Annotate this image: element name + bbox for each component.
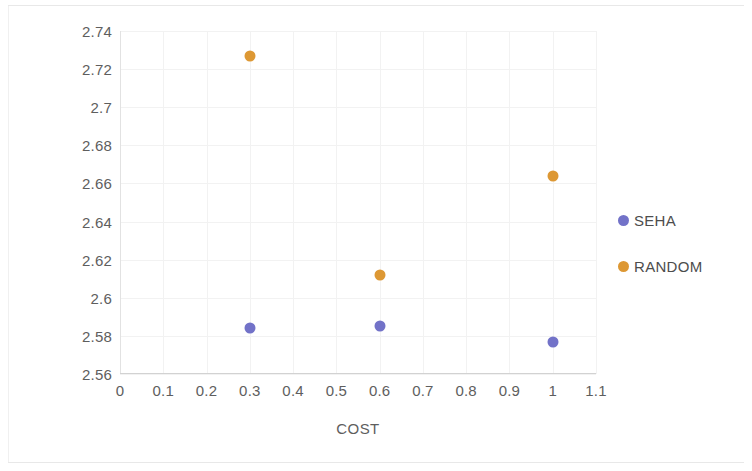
data-point-seha — [374, 321, 385, 332]
gridline-horizontal — [120, 183, 596, 184]
legend-marker-icon — [618, 261, 629, 272]
y-axis-tick-label: 2.7 — [56, 99, 112, 116]
gridline-vertical — [207, 31, 208, 374]
y-axis-tick-label: 2.62 — [56, 251, 112, 268]
x-axis-tick-label: 0.4 — [282, 382, 303, 399]
y-axis-tick-label: 2.74 — [56, 23, 112, 40]
x-axis-tick-label: 0.9 — [499, 382, 520, 399]
x-axis-tick-label: 0.8 — [455, 382, 476, 399]
y-axis-tick-label: 2.66 — [56, 175, 112, 192]
gridline-horizontal — [120, 374, 596, 375]
y-axis-tick-labels: 2.742.722.72.682.662.642.622.62.582.56 — [50, 31, 112, 374]
x-axis-tick-label: 0.6 — [369, 382, 390, 399]
x-axis-tick-label: 0.3 — [239, 382, 260, 399]
gridline-vertical — [596, 31, 597, 374]
x-axis-tick-label: 0.5 — [326, 382, 347, 399]
y-axis-tick-label: 2.72 — [56, 61, 112, 78]
chart-legend: SEHARANDOM — [618, 208, 748, 300]
y-axis-tick-label: 2.6 — [56, 289, 112, 306]
gridline-horizontal — [120, 107, 596, 108]
gridline-vertical — [293, 31, 294, 374]
x-axis-tick-label: 1.1 — [585, 382, 606, 399]
gridline-vertical — [336, 31, 337, 374]
x-axis-line — [120, 373, 596, 374]
gridline-horizontal — [120, 145, 596, 146]
data-point-random — [547, 170, 558, 181]
x-axis-tick-label: 0.1 — [153, 382, 174, 399]
data-point-seha — [547, 336, 558, 347]
plot-area — [120, 31, 596, 374]
legend-marker-icon — [618, 215, 629, 226]
gridline-horizontal — [120, 260, 596, 261]
data-point-seha — [244, 323, 255, 334]
y-axis-tick-label: 2.58 — [56, 327, 112, 344]
gridline-horizontal — [120, 336, 596, 337]
y-axis-tick-label: 2.64 — [56, 213, 112, 230]
gridline-horizontal — [120, 31, 596, 32]
data-point-random — [374, 269, 385, 280]
y-axis-tick-label: 2.68 — [56, 137, 112, 154]
legend-item-label: SEHA — [634, 212, 676, 229]
x-axis-title: COST — [120, 420, 596, 437]
y-axis-line — [120, 31, 121, 374]
gridline-vertical — [163, 31, 164, 374]
x-axis-tick-label: 1 — [548, 382, 557, 399]
x-axis-tick-label: 0.7 — [412, 382, 433, 399]
gridline-vertical — [466, 31, 467, 374]
x-axis-tick-labels: 00.10.20.30.40.50.60.70.80.911.1 — [120, 382, 596, 404]
legend-item-random[interactable]: RANDOM — [618, 254, 748, 278]
legend-item-seha[interactable]: SEHA — [618, 208, 748, 232]
gridline-horizontal — [120, 69, 596, 70]
y-axis-tick-label: 2.56 — [56, 366, 112, 383]
gridline-vertical — [423, 31, 424, 374]
gridline-horizontal — [120, 222, 596, 223]
gridline-vertical — [553, 31, 554, 374]
x-axis-tick-label: 0.2 — [196, 382, 217, 399]
scatter-chart-figure: 2.742.722.72.682.662.642.622.62.582.56 0… — [0, 0, 752, 471]
data-point-random — [244, 50, 255, 61]
legend-item-label: RANDOM — [634, 258, 702, 275]
x-axis-tick-label: 0 — [116, 382, 125, 399]
gridline-vertical — [509, 31, 510, 374]
gridline-horizontal — [120, 298, 596, 299]
